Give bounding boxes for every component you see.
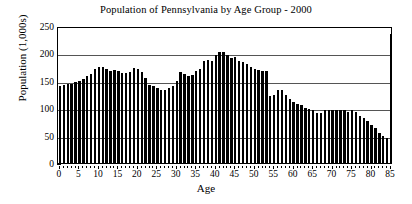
x-tick-mark [152, 166, 153, 168]
bar [129, 72, 131, 163]
bar [292, 102, 294, 163]
bar [172, 86, 174, 163]
bar [211, 61, 213, 163]
x-tick-mark [230, 166, 231, 168]
bar [121, 73, 123, 163]
bar [98, 67, 100, 163]
x-tick-mark [219, 166, 220, 168]
x-tick-mark [316, 166, 317, 168]
bar [250, 67, 252, 163]
bar [102, 67, 104, 163]
x-tick-mark [94, 166, 95, 168]
bar [152, 86, 154, 163]
bar [226, 55, 228, 163]
x-tick-mark [336, 166, 337, 168]
x-tick-mark [269, 166, 270, 168]
x-tick-mark [355, 166, 356, 168]
bar [386, 138, 388, 163]
x-tick-mark [203, 166, 204, 168]
x-tick-mark [82, 166, 83, 168]
x-tick-mark [187, 166, 188, 168]
x-tick-mark [238, 166, 239, 168]
y-tick-mark [57, 164, 61, 165]
x-tick-mark [133, 166, 134, 168]
bar [374, 128, 376, 163]
bar [382, 136, 384, 163]
x-tick-label: 85 [379, 169, 401, 179]
y-tick-label: 200 [20, 49, 54, 59]
x-tick-mark [172, 166, 173, 168]
x-tick-mark [262, 166, 263, 168]
plot-area [57, 27, 392, 164]
x-axis-ticks: 0510152025303540455055606570758085 [57, 166, 392, 180]
bar [215, 55, 217, 164]
bar [234, 57, 236, 163]
bar [257, 70, 259, 163]
bar [328, 110, 330, 163]
bar [281, 90, 283, 163]
bar [164, 90, 166, 163]
x-tick-mark [160, 166, 161, 168]
x-tick-mark [63, 166, 64, 168]
bar [183, 74, 185, 163]
x-tick-mark [184, 166, 185, 168]
bar [246, 64, 248, 163]
bar [355, 112, 357, 163]
x-tick-mark [378, 166, 379, 168]
x-tick-mark [347, 166, 348, 168]
x-tick-mark [297, 166, 298, 168]
bar [141, 72, 143, 163]
x-tick-mark [121, 166, 122, 168]
bar [125, 73, 127, 163]
bar [109, 71, 111, 163]
y-tick-label: 150 [20, 77, 54, 87]
bar [90, 74, 92, 163]
bar [378, 133, 380, 163]
bar [269, 96, 271, 163]
bar [67, 84, 69, 163]
bar [312, 110, 314, 163]
chart-title: Population of Pennsylvania by Age Group … [0, 4, 412, 16]
x-tick-mark [386, 166, 387, 168]
bar [199, 69, 201, 163]
bar [148, 85, 150, 163]
bar [343, 110, 345, 163]
bar [113, 70, 115, 163]
bar [308, 109, 310, 163]
bar [285, 95, 287, 163]
bar [390, 34, 392, 163]
y-axis-ticks: 050100150200250 [16, 27, 54, 164]
x-tick-mark [207, 166, 208, 168]
x-tick-mark [141, 166, 142, 168]
x-tick-mark [308, 166, 309, 168]
x-tick-mark [102, 166, 103, 168]
bar [289, 99, 291, 163]
bar [296, 104, 298, 163]
x-tick-mark [367, 166, 368, 168]
bar [339, 110, 341, 163]
x-tick-mark [304, 166, 305, 168]
x-tick-mark [250, 166, 251, 168]
x-tick-mark [289, 166, 290, 168]
x-axis-label: Age [0, 182, 412, 194]
x-tick-mark [106, 166, 107, 168]
x-tick-mark [363, 166, 364, 168]
x-tick-mark [246, 166, 247, 168]
x-tick-mark [129, 166, 130, 168]
x-tick-mark [285, 166, 286, 168]
bar [59, 86, 61, 163]
bar [137, 69, 139, 163]
bar [203, 61, 205, 163]
x-tick-mark [168, 166, 169, 168]
bar [144, 78, 146, 163]
x-tick-mark [71, 166, 72, 168]
x-tick-mark [75, 166, 76, 168]
bar [187, 76, 189, 163]
bar [359, 116, 361, 163]
x-tick-mark [149, 166, 150, 168]
y-tick-label: 0 [20, 159, 54, 169]
bar [347, 112, 349, 164]
bar [105, 69, 107, 163]
x-tick-mark [199, 166, 200, 168]
bar [230, 58, 232, 163]
